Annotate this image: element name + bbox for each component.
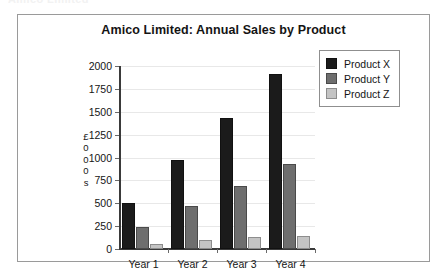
bar-group-year-1: Year 1	[119, 66, 168, 249]
y-axis-tick-label: 1000	[89, 152, 112, 164]
y-axis-tick-label: 750	[94, 174, 112, 186]
bar-product-x-year-2[interactable]	[171, 160, 184, 249]
legend-item-product-z[interactable]: Product Z	[326, 86, 390, 101]
chart-frame: Amico Limited: Annual Sales by Product £…	[17, 14, 430, 262]
x-axis-tick	[168, 249, 169, 253]
legend-swatch-icon	[326, 88, 337, 99]
bar-product-z-year-4[interactable]	[297, 236, 310, 249]
chart-title: Amico Limited: Annual Sales by Product	[18, 23, 429, 37]
legend-item-product-x[interactable]: Product X	[326, 56, 390, 71]
plot-area: 025050075010001250150017502000 Year 1Yea…	[119, 66, 315, 249]
bar-product-y-year-3[interactable]	[234, 186, 247, 249]
bar-product-x-year-1[interactable]	[122, 203, 135, 249]
y-axis-title-char-3: 0	[80, 165, 92, 176]
y-axis-tick-label: 0	[106, 243, 112, 255]
bar-product-z-year-1[interactable]	[150, 244, 163, 249]
x-axis-label-year-1: Year 1	[119, 258, 168, 270]
legend-label: Product Z	[344, 88, 390, 100]
bar-product-x-year-3[interactable]	[220, 118, 233, 249]
bar-product-y-year-1[interactable]	[136, 227, 149, 249]
legend-item-product-y[interactable]: Product Y	[326, 71, 390, 86]
bar-product-x-year-4[interactable]	[269, 74, 282, 249]
y-axis-tick-label: 1500	[89, 106, 112, 118]
legend-swatch-icon	[326, 58, 337, 69]
bar-group-year-4: Year 4	[266, 66, 315, 249]
x-axis-tick	[315, 249, 316, 253]
x-axis-label-year-3: Year 3	[217, 258, 266, 270]
chart-legend: Product XProduct YProduct Z	[319, 50, 400, 107]
x-axis-tick	[266, 249, 267, 253]
bar-group-year-2: Year 2	[168, 66, 217, 249]
clipped-page-heading: Amico Limited	[8, 0, 128, 5]
y-axis-title-char-4: s	[80, 177, 92, 188]
bar-product-y-year-2[interactable]	[185, 206, 198, 249]
y-axis-tick-label: 1250	[89, 129, 112, 141]
legend-label: Product X	[344, 58, 390, 70]
y-axis-tick-label: 1750	[89, 83, 112, 95]
bar-product-z-year-2[interactable]	[199, 240, 212, 249]
x-axis-label-year-2: Year 2	[168, 258, 217, 270]
legend-swatch-icon	[326, 73, 337, 84]
x-axis-label-year-4: Year 4	[266, 258, 315, 270]
y-axis-tick-label: 2000	[89, 60, 112, 72]
x-axis-tick	[217, 249, 218, 253]
legend-label: Product Y	[344, 73, 390, 85]
bar-product-z-year-3[interactable]	[248, 237, 261, 249]
y-axis-tick	[115, 249, 119, 250]
bar-group-year-3: Year 3	[217, 66, 266, 249]
y-axis-tick-label: 250	[94, 220, 112, 232]
bar-product-y-year-4[interactable]	[283, 164, 296, 249]
y-axis-tick-label: 500	[94, 197, 112, 209]
